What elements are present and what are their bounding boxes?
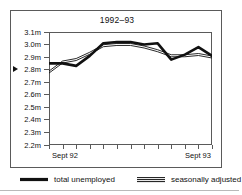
y-tick: 2.5m xyxy=(11,102,49,113)
y-tick-label: 2.9m xyxy=(24,52,41,63)
double-line-swatch xyxy=(137,175,165,184)
y-tick-label: 2.6m xyxy=(24,89,41,100)
x-tick-mark xyxy=(63,145,64,149)
x-tick-mark xyxy=(212,145,213,149)
series-line-seasonally-adjusted xyxy=(49,43,212,71)
x-tick-mark xyxy=(103,145,104,149)
x-tick-mark xyxy=(131,145,132,149)
x-tick-mark xyxy=(171,145,172,149)
y-axis: 3.1m3.0m2.9m2.8m2.7m2.6m2.5m2.4m2.3m2.2m xyxy=(11,32,49,145)
x-tick-mark xyxy=(185,145,186,149)
x-tick-mark xyxy=(117,145,118,149)
x-tick-mark xyxy=(49,145,50,149)
thick-line-swatch xyxy=(20,175,48,184)
y-tick-label: 2.2m xyxy=(24,140,41,151)
legend-item-total-unemployed: total unemployed xyxy=(20,175,115,184)
legend-item-seasonally-adjusted: seasonally adjusted xyxy=(137,175,239,184)
chart-figure: 1992–93 3.1m3.0m2.9m2.8m2.7m2.6m2.5m2.4m… xyxy=(10,10,222,168)
x-tick-mark xyxy=(198,145,199,149)
y-tick: 2.6m xyxy=(11,89,49,100)
y-tick: 3.0m xyxy=(11,39,49,50)
x-tick-mark xyxy=(90,145,91,149)
x-axis-labels: Sept 92Sept 93 xyxy=(49,150,219,162)
y-tick-label: 2.4m xyxy=(24,114,41,125)
y-tick-label: 2.8m xyxy=(24,64,41,75)
x-tick-mark xyxy=(158,145,159,149)
x-tick-label: Sept 92 xyxy=(52,150,78,161)
y-tick: 3.1m xyxy=(11,27,49,38)
x-tick-label: Sept 93 xyxy=(185,150,211,161)
y-tick-label: 3.1m xyxy=(24,27,41,38)
y-tick: 2.7m xyxy=(11,77,49,88)
value-pointer-triangle-icon xyxy=(13,66,18,72)
y-tick: 2.2m xyxy=(11,140,49,151)
y-tick-label: 2.3m xyxy=(24,127,41,138)
y-tick-label: 2.7m xyxy=(24,77,41,88)
chart-legend: total unemployed seasonally adjusted xyxy=(10,172,222,186)
x-tick-mark xyxy=(144,145,145,149)
chart-title: 1992–93 xyxy=(11,15,223,25)
y-tick-label: 2.5m xyxy=(24,102,41,113)
y-tick-label: 3.0m xyxy=(24,39,41,50)
bottom-divider xyxy=(0,190,239,191)
legend-label-total-unemployed: total unemployed xyxy=(54,175,115,184)
y-tick: 2.3m xyxy=(11,127,49,138)
plot-area xyxy=(49,32,212,145)
y-tick: 2.9m xyxy=(11,52,49,63)
y-tick: 2.4m xyxy=(11,114,49,125)
legend-label-seasonally-adjusted: seasonally adjusted xyxy=(171,175,239,184)
x-tick-mark xyxy=(76,145,77,149)
